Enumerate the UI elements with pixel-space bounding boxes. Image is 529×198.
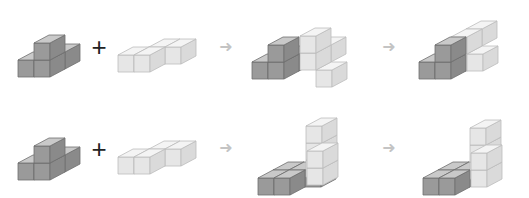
cube-front-face (118, 157, 134, 174)
row-1-dark-piece (18, 35, 80, 77)
cube-front-face (165, 149, 181, 166)
cube-front-face (34, 60, 50, 77)
cube-front-face (268, 45, 284, 62)
cube-front-face (306, 126, 322, 143)
cube-front-face (252, 62, 268, 79)
cube-front-face (423, 178, 439, 195)
row-1-result-shape (419, 21, 498, 79)
arrow-right-icon: ➜ (219, 37, 232, 56)
cube-front-face (435, 45, 451, 62)
cube-front-face (34, 43, 50, 60)
cube-front-face (274, 178, 290, 195)
cube-front-face (18, 60, 34, 77)
cube-combination-diagram: + ➜ ➜ + ➜ ➜ (0, 0, 529, 198)
cube-front-face (34, 163, 50, 180)
cube-front-face (258, 178, 274, 195)
cube-front-face (134, 157, 150, 174)
plus-sign: + (91, 32, 106, 62)
row-1-light-piece (118, 39, 196, 72)
row-2: + ➜ ➜ (18, 118, 502, 195)
cube-front-face (134, 55, 150, 72)
cube-front-face (18, 163, 34, 180)
row-2-light-piece (118, 141, 196, 174)
plus-sign: + (91, 134, 106, 164)
cube-front-face (470, 128, 486, 145)
arrow-right-icon: ➜ (219, 138, 232, 157)
cube-front-face (307, 151, 323, 168)
row-2-intermediate-assembly (258, 118, 338, 195)
cube-front-face (307, 168, 323, 185)
cube-front-face (419, 62, 435, 79)
cube-front-face (300, 53, 316, 70)
cube-front-face (471, 170, 487, 187)
cube-front-face (300, 36, 316, 53)
cube-front-face (471, 153, 487, 170)
cube-front-face (34, 146, 50, 163)
row-1-intermediate-assembly (252, 28, 347, 87)
arrow-right-icon: ➜ (382, 138, 395, 157)
row-2-dark-piece (18, 138, 80, 180)
cube-front-face (118, 55, 134, 72)
cube-front-face (435, 62, 451, 79)
arrow-right-icon: ➜ (382, 37, 395, 56)
row-1: + ➜ ➜ (18, 21, 498, 87)
cube-front-face (439, 178, 455, 195)
cube-front-face (268, 62, 284, 79)
row-2-result-shape (423, 120, 502, 195)
cube-front-face (316, 70, 332, 87)
cube-front-face (165, 47, 181, 64)
cube-front-face (467, 54, 483, 71)
